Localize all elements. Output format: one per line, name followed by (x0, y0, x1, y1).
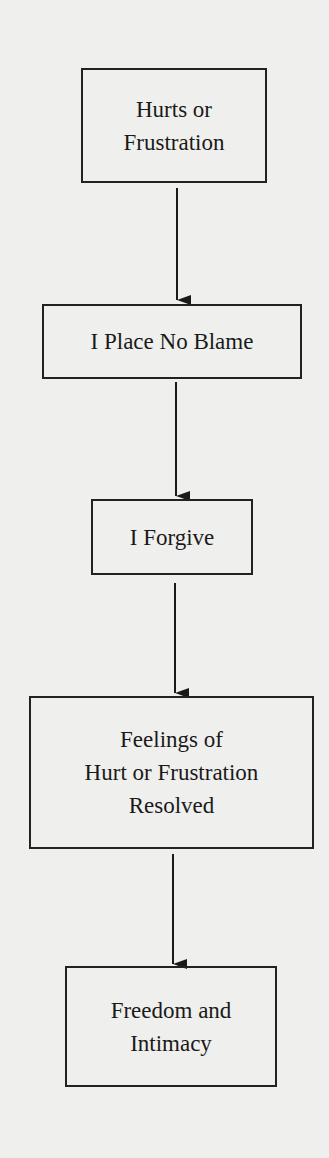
node-freedom-and-intimacy: Freedom and Intimacy (65, 966, 277, 1087)
node-i-forgive: I Forgive (91, 499, 253, 575)
node-text: Resolved (129, 789, 215, 822)
node-text: Frustration (124, 126, 225, 159)
node-text: Intimacy (130, 1027, 212, 1060)
node-text: Hurt or Frustration (85, 756, 259, 789)
node-text: Hurts or (136, 93, 212, 126)
node-hurts-or-frustration: Hurts or Frustration (81, 68, 267, 183)
node-feelings-resolved: Feelings of Hurt or Frustration Resolved (29, 696, 314, 849)
node-text: I Place No Blame (91, 325, 254, 358)
node-text: Feelings of (120, 723, 223, 756)
node-text: I Forgive (130, 521, 215, 554)
node-text: Freedom and (111, 994, 232, 1027)
node-i-place-no-blame: I Place No Blame (42, 304, 302, 379)
